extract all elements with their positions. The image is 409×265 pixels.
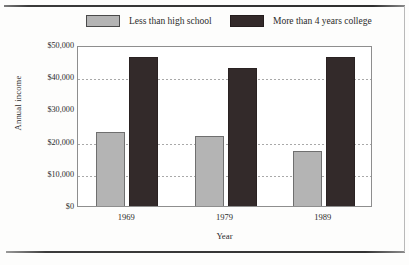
y-axis-tick-labels: $50,000$40,000$30,000$20,000$10,000$0 xyxy=(20,40,74,215)
x-axis-title: Year xyxy=(77,231,372,241)
y-axis-tick-50000: $50,000 xyxy=(20,42,74,50)
y-axis-tick-0: $0 xyxy=(20,203,74,211)
plot-area xyxy=(77,46,372,207)
y-axis-tick-10000: $10,000 xyxy=(20,171,74,179)
bar-1989-less-than-high-school xyxy=(293,151,322,206)
bar-1979-more-than-4-years-college xyxy=(228,68,257,206)
x-axis-tick-labels: 196919791989 xyxy=(77,212,372,226)
bar-1989-more-than-4-years-college xyxy=(326,57,355,206)
x-axis-tick-1979: 1979 xyxy=(195,212,255,222)
y-axis-tick-30000: $30,000 xyxy=(20,106,74,114)
x-axis-tick-1969: 1969 xyxy=(96,212,156,222)
bar-chart: Annual income $50,000$40,000$30,000$20,0… xyxy=(0,0,409,265)
x-axis-tick-1989: 1989 xyxy=(293,212,353,222)
chart-page: Less than high school More than 4 years … xyxy=(0,0,409,265)
bar-series-layer xyxy=(78,47,371,206)
bar-1979-less-than-high-school xyxy=(195,136,224,206)
y-axis-tick-40000: $40,000 xyxy=(20,74,74,82)
bar-1969-less-than-high-school xyxy=(96,132,125,206)
y-axis-tick-20000: $20,000 xyxy=(20,139,74,147)
bar-1969-more-than-4-years-college xyxy=(129,57,158,206)
